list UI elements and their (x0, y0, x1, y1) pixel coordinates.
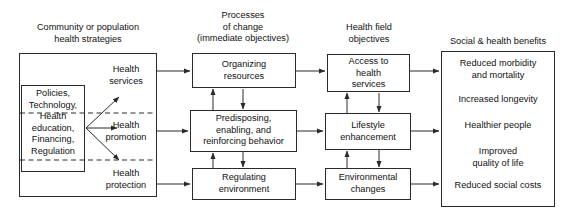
benefit-reduced-social-costs: Reduced social costs (441, 180, 555, 192)
diagram-canvas: Community or population health strategie… (0, 0, 571, 221)
objective-label-lifestyle-enhancement: Lifestyle enhancement (325, 120, 411, 143)
process-label-predisposing-behavior: Predisposing, enabling, and reinforcing … (190, 113, 297, 148)
column-heading-objectives: Health field objectives (324, 22, 414, 45)
strategy-label-health-services: Health services (98, 64, 154, 87)
benefit-reduced-morbidity: Reduced morbidity and mortality (441, 58, 555, 81)
process-label-organizing-resources: Organizing resources (192, 59, 296, 82)
strategy-label-health-promotion: Health promotion (96, 120, 156, 143)
benefit-healthier-people: Healthier people (441, 120, 555, 132)
column-heading-benefits: Social & health benefits (437, 36, 559, 48)
objective-label-environmental-changes: Environmental changes (325, 172, 411, 195)
objective-label-access-to-health-services: Access to health services (327, 56, 410, 91)
strategy-label-health-protection: Health protection (96, 168, 156, 191)
column-heading-strategies: Community or population health strategie… (19, 22, 157, 45)
process-label-regulating-environment: Regulating environment (192, 172, 296, 195)
inputs-box-label: Policies, Technology, Health education, … (21, 88, 85, 157)
benefit-improved-quality-of-life: Improved quality of life (441, 146, 555, 169)
column-heading-processes: Processes of change (immediate objective… (191, 10, 295, 45)
benefit-increased-longevity: Increased longevity (441, 94, 555, 106)
